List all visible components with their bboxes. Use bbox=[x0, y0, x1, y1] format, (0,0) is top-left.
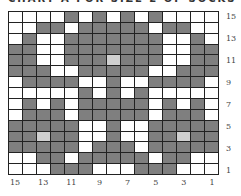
row-label: 15 bbox=[226, 12, 236, 21]
chart-cell bbox=[107, 45, 120, 55]
chart-cell bbox=[9, 12, 22, 22]
row-label: 7 bbox=[226, 99, 231, 108]
chart-cell bbox=[51, 23, 64, 33]
chart-cell bbox=[37, 132, 50, 142]
chart-cell bbox=[149, 164, 162, 174]
chart-cell bbox=[9, 45, 22, 55]
chart-cell bbox=[93, 55, 106, 65]
chart-cell bbox=[163, 88, 176, 98]
chart-cell bbox=[79, 77, 92, 87]
chart-cell bbox=[135, 55, 148, 65]
chart-cell bbox=[93, 110, 106, 120]
chart-cell bbox=[37, 23, 50, 33]
chart-cell bbox=[205, 121, 218, 131]
column-label: 7 bbox=[125, 178, 130, 187]
chart-cell bbox=[79, 55, 92, 65]
chart-cell bbox=[65, 66, 78, 76]
chart-cell bbox=[65, 12, 78, 22]
chart-cell bbox=[121, 164, 134, 174]
chart-cell bbox=[93, 66, 106, 76]
chart-cell bbox=[65, 110, 78, 120]
chart-cell bbox=[79, 23, 92, 33]
chart-cell bbox=[51, 55, 64, 65]
chart-cell bbox=[205, 77, 218, 87]
chart-cell bbox=[149, 110, 162, 120]
chart-cell bbox=[177, 55, 190, 65]
chart-cell bbox=[163, 121, 176, 131]
row-label: 13 bbox=[226, 34, 236, 43]
chart-cell bbox=[135, 164, 148, 174]
chart-cell bbox=[23, 88, 36, 98]
chart-cell bbox=[177, 23, 190, 33]
chart-cell bbox=[121, 153, 134, 163]
chart-cell bbox=[65, 121, 78, 131]
chart-cell bbox=[149, 121, 162, 131]
chart-cell bbox=[177, 34, 190, 44]
chart-cell bbox=[121, 88, 134, 98]
chart-cell bbox=[107, 23, 120, 33]
chart-cell bbox=[23, 12, 36, 22]
chart-cell bbox=[121, 77, 134, 87]
chart-cell bbox=[51, 99, 64, 109]
chart-cell bbox=[163, 55, 176, 65]
chart-cell bbox=[23, 55, 36, 65]
chart-cell bbox=[205, 99, 218, 109]
chart-cell bbox=[107, 99, 120, 109]
chart-cell bbox=[177, 99, 190, 109]
chart-cell bbox=[205, 164, 218, 174]
chart-cell bbox=[23, 99, 36, 109]
row-label: 5 bbox=[226, 121, 231, 130]
chart-cell bbox=[163, 153, 176, 163]
chart-cell bbox=[93, 45, 106, 55]
chart-cell bbox=[37, 34, 50, 44]
chart-cell bbox=[37, 55, 50, 65]
chart-cell bbox=[121, 110, 134, 120]
chart-cell bbox=[107, 34, 120, 44]
chart-cell bbox=[135, 77, 148, 87]
chart-cell bbox=[79, 88, 92, 98]
chart-cell bbox=[79, 34, 92, 44]
chart-cell bbox=[93, 142, 106, 152]
chart-cell bbox=[65, 55, 78, 65]
chart-cell bbox=[149, 99, 162, 109]
chart-cell bbox=[163, 45, 176, 55]
chart-cell bbox=[163, 142, 176, 152]
chart-cell bbox=[149, 132, 162, 142]
chart-cell bbox=[37, 142, 50, 152]
chart-cell bbox=[93, 164, 106, 174]
chart-cell bbox=[93, 99, 106, 109]
chart-cell bbox=[107, 66, 120, 76]
chart-cell bbox=[51, 88, 64, 98]
chart-cell bbox=[107, 164, 120, 174]
chart-cell bbox=[135, 142, 148, 152]
chart-cell bbox=[9, 88, 22, 98]
chart-cell bbox=[177, 77, 190, 87]
chart-cell bbox=[23, 132, 36, 142]
chart-cell bbox=[149, 77, 162, 87]
chart-cell bbox=[107, 142, 120, 152]
chart-cell bbox=[37, 121, 50, 131]
chart-cell bbox=[135, 34, 148, 44]
chart-cell bbox=[37, 164, 50, 174]
chart-cell bbox=[79, 142, 92, 152]
chart-cell bbox=[177, 12, 190, 22]
chart-cell bbox=[191, 153, 204, 163]
chart-cell bbox=[163, 66, 176, 76]
chart-cell bbox=[51, 110, 64, 120]
chart-cell bbox=[205, 12, 218, 22]
chart-cell bbox=[37, 45, 50, 55]
chart-cell bbox=[51, 121, 64, 131]
chart-cell bbox=[135, 12, 148, 22]
column-label: 5 bbox=[153, 178, 158, 187]
chart-cell bbox=[37, 110, 50, 120]
column-number-labels: 15131197531 bbox=[8, 178, 219, 192]
chart-cell bbox=[37, 66, 50, 76]
chart-cell bbox=[51, 34, 64, 44]
chart-cell bbox=[37, 99, 50, 109]
chart-cell bbox=[121, 142, 134, 152]
chart-cell bbox=[65, 153, 78, 163]
chart-cell bbox=[177, 110, 190, 120]
chart-cell bbox=[23, 121, 36, 131]
chart-cell bbox=[149, 12, 162, 22]
chart-cell bbox=[177, 88, 190, 98]
